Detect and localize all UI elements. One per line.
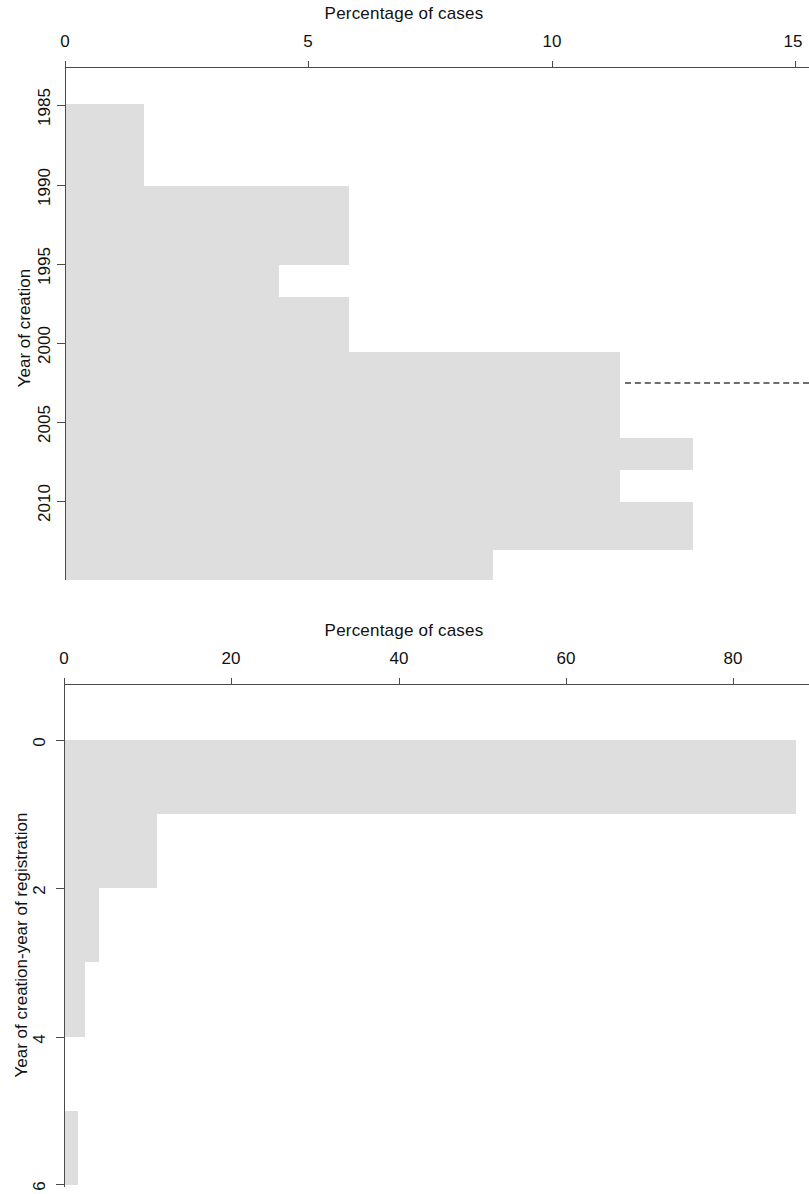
panel2-ytick-4	[56, 1037, 64, 1038]
panel2-xtick-80	[733, 678, 734, 685]
panel2-xtick-40	[399, 678, 400, 685]
panel1-ytick-1990	[57, 185, 65, 186]
panel1-ytick-1985	[57, 105, 65, 106]
panel1-y-axis-title: Year of creation	[15, 233, 35, 423]
bar-1990-1994	[66, 186, 349, 265]
panel1-x-axis-title: Percentage of cases	[325, 4, 484, 24]
bar-2009-2011	[66, 550, 493, 580]
panel2-plot-area	[65, 685, 809, 1187]
panel2-x-axis-title: Percentage of cases	[325, 621, 484, 641]
bar-1998-2003	[66, 352, 620, 438]
panel2-ytick-label-6: 6	[30, 1168, 50, 1194]
panel2-ytick-2	[56, 888, 64, 889]
chart-panel-year-of-creation: Percentage of cases 0 5 10 15 1985 1990 …	[0, 0, 809, 600]
panel1-ytick-1995	[57, 264, 65, 265]
panel1-xtick-label-5: 5	[303, 32, 312, 52]
panel1-ytick-label-1990: 1990	[35, 162, 55, 212]
panel1-dashed-continuation-line	[625, 382, 809, 384]
panel2-xtick-20	[231, 678, 232, 685]
panel1-ytick-label-1985: 1985	[35, 82, 55, 132]
panel1-xtick-5	[308, 61, 309, 68]
panel2-xtick-label-0: 0	[59, 649, 68, 669]
panel1-ytick-label-1995: 1995	[35, 241, 55, 291]
panel1-xtick-label-0: 0	[60, 32, 69, 52]
bar-lag-0	[65, 740, 796, 814]
panel1-ytick-label-2010: 2010	[35, 478, 55, 528]
bar-lag-5	[65, 1111, 78, 1185]
bar-1995-1998	[66, 297, 349, 352]
bar-1994-1995	[66, 265, 279, 297]
panel2-y-axis-title: Year of creation-year of registration	[12, 760, 32, 1130]
bar-lag-3	[65, 962, 85, 1037]
panel1-xtick-label-15: 15	[784, 32, 803, 52]
panel2-xtick-60	[566, 678, 567, 685]
panel2-xtick-label-40: 40	[390, 649, 409, 669]
bar-2007-2009	[66, 502, 693, 550]
panel1-ytick-label-2005: 2005	[35, 399, 55, 449]
bar-2003-2005	[66, 438, 693, 470]
panel1-ytick-2005	[57, 422, 65, 423]
bar-lag-1	[65, 814, 157, 888]
panel2-ytick-label-4: 4	[30, 1021, 50, 1057]
bar-lag-2	[65, 888, 99, 962]
panel1-ytick-label-2000: 2000	[35, 320, 55, 370]
chart-panel-creation-minus-registration: Percentage of cases 0 20 40 60 80 0 2 4 …	[0, 605, 809, 1187]
panel2-ytick-label-2: 2	[30, 872, 50, 908]
panel2-ytick-label-0: 0	[30, 724, 50, 760]
panel2-ytick-0	[56, 740, 64, 741]
panel1-ytick-2000	[57, 343, 65, 344]
panel1-ytick-2010	[57, 501, 65, 502]
bar-2005-2007	[66, 470, 620, 502]
panel1-xtick-10	[552, 61, 553, 68]
panel1-xtick-15	[795, 61, 796, 68]
panel1-xtick-label-10: 10	[543, 32, 562, 52]
panel2-xtick-label-20: 20	[222, 649, 241, 669]
panel2-xtick-label-60: 60	[557, 649, 576, 669]
panel2-xtick-label-80: 80	[724, 649, 743, 669]
panel2-ytick-6	[56, 1184, 64, 1185]
panel1-plot-area	[66, 68, 809, 580]
